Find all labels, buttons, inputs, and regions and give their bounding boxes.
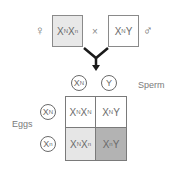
sperm-label: Sperm: [138, 80, 165, 90]
allele-superscript: N: [87, 109, 91, 115]
allele-base: X: [81, 107, 88, 118]
cross-symbol: ×: [92, 26, 98, 37]
eggs-label: Eggs: [12, 119, 33, 129]
male-symbol-icon: ♂: [143, 24, 153, 37]
allele-base: Y: [113, 139, 120, 150]
allele-base: Y: [126, 26, 133, 37]
female-symbol-icon: ♀: [35, 24, 45, 37]
allele-base: X: [115, 26, 122, 37]
allele-superscript: n: [75, 28, 78, 34]
female-parent-genotype: XNXn: [52, 15, 83, 47]
egg-gamete-xN: XN: [40, 104, 56, 120]
punnett-cell-xny: XnY: [96, 128, 126, 160]
allele-superscript: n: [49, 141, 52, 147]
allele-base: X: [102, 107, 109, 118]
allele-superscript: N: [49, 109, 53, 115]
allele-base: X: [70, 139, 77, 150]
punnett-cell-xNy: XNY: [96, 97, 126, 128]
egg-gamete-xn: Xn: [40, 136, 56, 152]
allele-base: Y: [113, 107, 120, 118]
allele-base: X: [68, 26, 75, 37]
allele-base: Y: [106, 78, 112, 88]
male-parent-genotype: XNY: [108, 15, 139, 47]
allele-base: X: [57, 26, 64, 37]
allele-superscript: n: [88, 141, 91, 147]
allele-base: X: [81, 139, 88, 150]
allele-base: X: [69, 107, 76, 118]
allele-base: X: [103, 139, 110, 150]
sperm-gamete-xn: XN: [71, 75, 87, 91]
punnett-cell-xNxn: XNXn: [66, 128, 96, 160]
punnett-cell-xNxN: XNXN: [66, 97, 96, 128]
allele-superscript: N: [80, 80, 84, 86]
sperm-gamete-y: Y: [101, 75, 117, 91]
